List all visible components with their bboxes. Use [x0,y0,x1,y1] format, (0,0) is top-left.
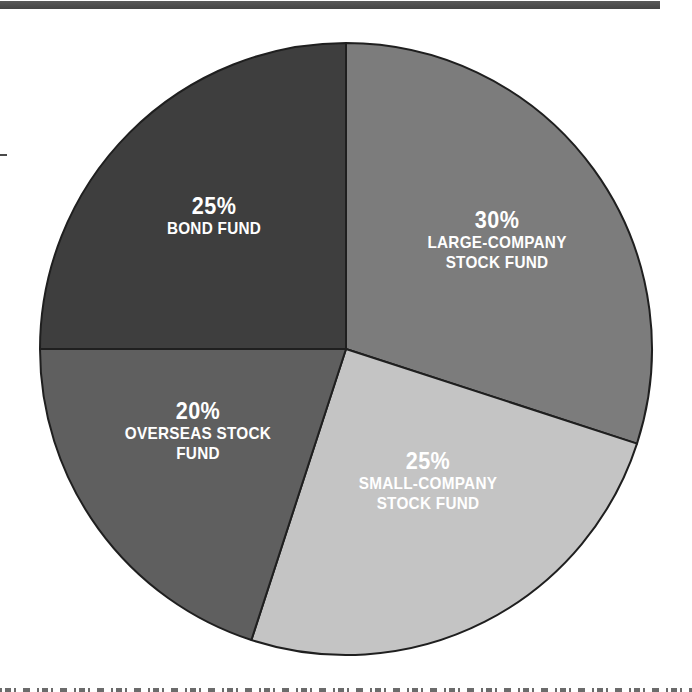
figure-page: 30%LARGE-COMPANYSTOCK FUND25%SMALL-COMPA… [0,0,692,692]
cropped-caption-text [0,688,692,692]
pie-slice-bond-fund [40,43,346,349]
asset-allocation-pie-chart [0,0,692,692]
